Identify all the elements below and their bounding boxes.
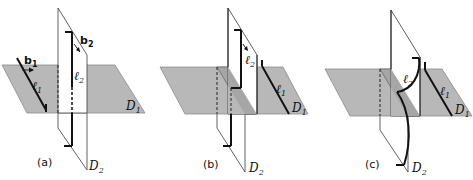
caption-b: (b): [203, 158, 219, 171]
label-d1: D1: [291, 101, 307, 117]
label-b1: b1: [24, 54, 38, 69]
label-d2: D2: [411, 161, 427, 177]
label-d2: D2: [88, 159, 104, 175]
label-b2: b2: [80, 34, 93, 49]
label-d2: D2: [248, 161, 264, 177]
panel-b: ℓ2 ℓ1 D1 D2 (b): [160, 8, 308, 177]
label-d1: D1: [125, 99, 141, 115]
three-panel-diagram: b1 b2 ℓ1 ℓ2 D1 D2 (a) ℓ2 ℓ1 D1: [0, 0, 473, 180]
panel-c: ℓ2 ℓ1 D1 D2 (c): [325, 10, 472, 177]
label-d1: D1: [454, 103, 470, 119]
caption-a: (a): [37, 156, 52, 169]
panel-a: b1 b2 ℓ1 ℓ2 D1 D2 (a): [2, 8, 145, 175]
caption-c: (c): [365, 158, 380, 171]
